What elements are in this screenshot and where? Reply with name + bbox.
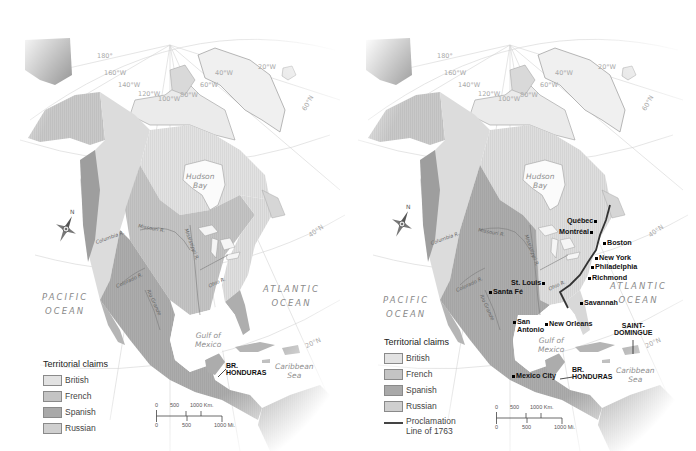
city-dot xyxy=(542,282,545,285)
map-after-1763: 180° 160°W 140°W 120°W 100°W 80°W 60°W 4… xyxy=(348,0,696,451)
longitude-label: 140°W xyxy=(118,82,140,89)
longitude-label: 120°W xyxy=(138,91,160,98)
leader-line xyxy=(631,340,635,354)
legend-item-british: British xyxy=(384,350,456,366)
leader-line xyxy=(560,376,574,380)
longitude-label: 40°W xyxy=(215,70,233,77)
city-dot xyxy=(545,323,548,326)
scale-bar: 0 500 1000 Km. 0 500 1000 Mi. xyxy=(154,403,234,433)
city-st-louis: St. Louis xyxy=(511,279,546,286)
longitude-label: 140°W xyxy=(458,82,480,89)
legend-item-french: French xyxy=(43,388,108,404)
city-savannah: Savannah xyxy=(580,299,618,306)
longitude-label: 80°W xyxy=(180,92,198,99)
city-new-york: New York xyxy=(595,254,631,261)
legend-item-french: French xyxy=(384,366,456,382)
legend-title: Territorial claims xyxy=(384,337,456,347)
legend-item-spanish: Spanish xyxy=(43,404,108,420)
city-mexico-city: Mexico City xyxy=(512,372,556,379)
russian-swatch xyxy=(384,401,403,412)
city-dot xyxy=(512,375,515,378)
city-dot xyxy=(594,220,597,223)
legend-item-spanish: Spanish xyxy=(384,382,456,398)
svg-text:N: N xyxy=(70,208,75,215)
city-santa-fe: Santa Fé xyxy=(489,288,523,295)
legend-item-russian: Russian xyxy=(43,420,108,436)
legend: Territorial claims British French Spanis… xyxy=(43,359,108,436)
br-honduras-label: BR.HONDURAS xyxy=(572,366,612,381)
city-richmond: Richmond xyxy=(588,274,627,281)
city-dot xyxy=(489,291,492,294)
longitude-label: 40°W xyxy=(555,70,573,77)
atlantic-ocean-label: ATLANTICOCEAN xyxy=(263,285,320,307)
legend-title: Territorial claims xyxy=(43,359,108,369)
city-dot xyxy=(580,302,583,305)
pacific-ocean-label: PACIFICOCEAN xyxy=(42,293,88,315)
spanish-swatch xyxy=(384,385,403,396)
legend-item-proclamation-line: Proclamation Line of 1763 xyxy=(384,414,456,443)
map-before-1763: 180° 160°W 140°W 120°W 100°W 80°W 60°W 4… xyxy=(0,0,348,451)
svg-text:N: N xyxy=(406,203,411,210)
hudson-bay-label: HudsonBay xyxy=(526,173,554,190)
gulf-of-mexico-label: Gulf ofMexico xyxy=(195,332,221,349)
longitude-label: 120°W xyxy=(478,91,500,98)
proclamation-line-swatch xyxy=(384,422,403,424)
longitude-label: 180° xyxy=(437,53,453,60)
leader-line xyxy=(217,368,227,378)
spanish-swatch xyxy=(43,407,62,418)
longitude-label: 160°W xyxy=(444,70,466,77)
caribbean-sea-label: CaribbeanSea xyxy=(616,367,655,384)
scale-bar: 0 500 1000 Km. 0 500 1000 Mi. xyxy=(494,405,574,435)
longitude-label: 80°W xyxy=(520,92,538,99)
city-boston: Boston xyxy=(603,239,632,246)
city-philadelphia: Philadelphia xyxy=(591,263,637,270)
city-quebec: Québec xyxy=(567,217,598,224)
city-dot xyxy=(603,242,606,245)
french-swatch xyxy=(43,391,62,402)
compass-rose-icon: N xyxy=(48,205,84,245)
legend-item-british: British xyxy=(43,372,108,388)
saint-domingue-label: SAINT-DOMINGUE xyxy=(614,322,653,337)
city-dot xyxy=(595,257,598,260)
longitude-label: 100°W xyxy=(498,96,520,103)
pacific-ocean-label: PACIFICOCEAN xyxy=(383,296,429,318)
longitude-label: 160°W xyxy=(104,70,126,77)
longitude-label: 20°W xyxy=(258,64,276,71)
hudson-bay-label: HudsonBay xyxy=(186,173,214,190)
city-dot xyxy=(588,277,591,280)
city-montreal: Montréal xyxy=(559,228,594,235)
br-honduras-label: BR.HONDURAS xyxy=(226,362,266,377)
longitude-label: 60°W xyxy=(200,82,218,89)
city-dot xyxy=(591,266,594,269)
caribbean-sea-label: CaribbeanSea xyxy=(275,363,314,380)
british-swatch xyxy=(384,353,403,364)
gulf-of-mexico-label: Gulf ofMexico xyxy=(538,337,564,354)
legend-item-russian: Russian xyxy=(384,398,456,414)
british-swatch xyxy=(43,375,62,386)
legend: Territorial claims British French Spanis… xyxy=(384,337,456,443)
city-dot xyxy=(590,231,593,234)
longitude-label: 180° xyxy=(97,53,113,60)
longitude-label: 60°W xyxy=(540,82,558,89)
longitude-label: 20°W xyxy=(598,64,616,71)
longitude-label: 100°W xyxy=(158,96,180,103)
french-swatch xyxy=(384,369,403,380)
russian-swatch xyxy=(43,423,62,434)
city-new-orleans: New Orleans xyxy=(545,320,593,327)
atlantic-ocean-label: ATLANTICOCEAN xyxy=(610,282,667,304)
compass-rose-icon: N xyxy=(384,200,420,240)
city-dot xyxy=(513,321,516,324)
city-san-antonio: San Antonio xyxy=(513,318,544,333)
